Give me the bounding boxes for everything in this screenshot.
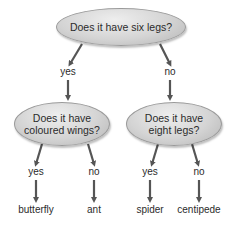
eight-legs-question-node: Does it have eight legs? — [126, 102, 222, 146]
wings-yes-label: yes — [28, 166, 44, 177]
answer-ant: ant — [87, 204, 101, 215]
wings-no-label: no — [88, 166, 99, 177]
root-no-label: no — [164, 66, 175, 77]
answer-butterfly: butterfly — [18, 204, 54, 215]
root-question-node: Does it have six legs? — [56, 8, 186, 46]
coloured-wings-line2: coloured wings? — [24, 124, 100, 136]
eight-legs-yes-label: yes — [142, 166, 158, 177]
eight-legs-no-label: no — [193, 166, 204, 177]
coloured-wings-line1: Does it have — [33, 112, 91, 124]
answer-spider: spider — [136, 204, 163, 215]
root-question-text: Does it have six legs? — [70, 21, 172, 33]
answer-centipede: centipede — [177, 204, 220, 215]
coloured-wings-question-node: Does it have coloured wings? — [14, 102, 110, 146]
eight-legs-line1: Does it have — [145, 112, 203, 124]
eight-legs-line2: eight legs? — [149, 124, 200, 136]
root-yes-label: yes — [60, 66, 76, 77]
